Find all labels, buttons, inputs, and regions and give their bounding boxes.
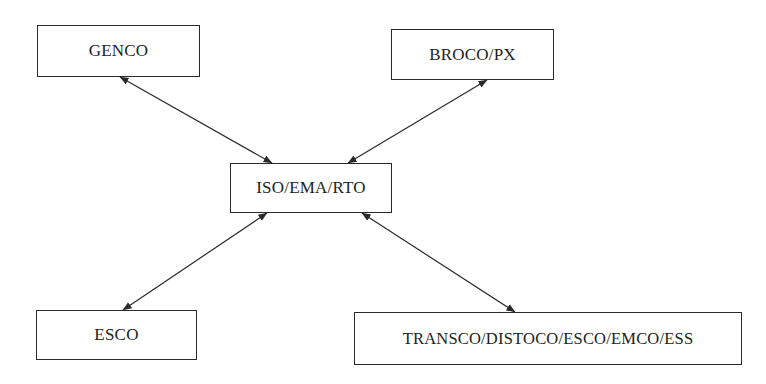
node-iso-ema-rto-hub: ISO/EMA/RTO <box>230 163 392 213</box>
diagram-canvas: GENCO BROCO/PX ISO/EMA/RTO ESCO TRANSCO/… <box>0 0 766 384</box>
node-esco-label: ESCO <box>94 325 138 345</box>
node-transco-group: TRANSCO/DISTOCO/ESCO/EMCO/ESS <box>354 312 742 365</box>
edge-iso-transco <box>362 213 515 312</box>
edge-iso-esco <box>123 213 267 310</box>
node-esco: ESCO <box>36 310 197 360</box>
node-iso-ema-rto-label: ISO/EMA/RTO <box>256 178 366 198</box>
edge-broco-iso <box>348 80 487 163</box>
node-genco: GENCO <box>37 25 200 77</box>
edge-genco-iso <box>120 77 272 163</box>
node-broco-px-label: BROCO/PX <box>429 45 516 65</box>
node-genco-label: GENCO <box>89 41 149 61</box>
node-transco-group-label: TRANSCO/DISTOCO/ESCO/EMCO/ESS <box>403 329 694 349</box>
node-broco-px: BROCO/PX <box>391 29 554 80</box>
